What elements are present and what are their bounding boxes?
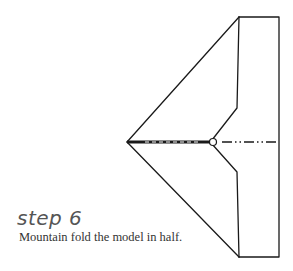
wing-panel (239, 17, 279, 257)
step-label: step 6 (17, 206, 82, 230)
instruction-text: Mountain fold the model in half. (19, 230, 182, 245)
inner-fold-bottom (212, 144, 239, 257)
inner-fold-top (212, 17, 239, 140)
top-edge (127, 17, 239, 142)
